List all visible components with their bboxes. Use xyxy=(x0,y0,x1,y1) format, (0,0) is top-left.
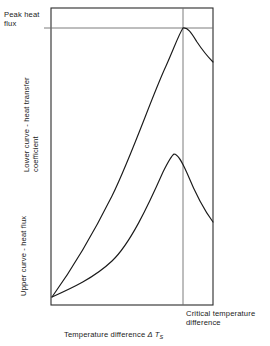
x-axis-symbol: Δ T xyxy=(148,330,160,339)
x-axis-label: Temperature difference Δ TS xyxy=(64,330,163,340)
critical-temperature-label: Critical temperature difference xyxy=(186,309,270,328)
x-axis-subscript: S xyxy=(160,334,164,340)
x-axis-label-text: Temperature difference xyxy=(64,330,145,339)
peak-heat-flux-label: Peak heat flux xyxy=(4,10,48,29)
lower-curve-axis-label-line2: coefficient xyxy=(31,136,40,172)
plot-frame xyxy=(51,8,213,305)
lower-curve-axis-label-line1: Lower curve - heat transfer xyxy=(22,77,31,172)
boiling-curve-figure xyxy=(0,0,270,346)
upper-curve-heat-flux xyxy=(52,28,213,297)
lower-curve-heat-transfer-coefficient xyxy=(52,154,213,297)
upper-curve-axis-label: Upper curve - heat flux xyxy=(19,216,28,296)
